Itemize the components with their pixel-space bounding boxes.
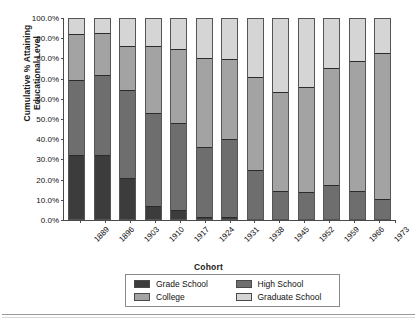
legend-swatch-icon xyxy=(236,293,252,301)
bar-segment-graduate-school xyxy=(374,18,391,53)
x-axis-tick-mark xyxy=(379,220,380,223)
bar-segment-high-school xyxy=(68,80,85,155)
bar-1945[interactable] xyxy=(272,18,289,220)
bar-segment-high-school xyxy=(221,139,238,217)
plot-area: 0.0%10.0%20.0%30.0%40.0%50.0%60.0%70.0%8… xyxy=(63,18,395,221)
y-axis-tick-label: 50.0% xyxy=(36,115,64,124)
x-axis-tick-label-1924: 1924 xyxy=(217,225,236,244)
y-axis-tick-mark xyxy=(61,220,64,221)
y-axis-tick-label: 90.0% xyxy=(36,34,64,43)
bar-1917[interactable] xyxy=(170,18,187,220)
bar-segment-grade-school xyxy=(170,210,187,220)
x-axis-tick-label-1966: 1966 xyxy=(367,225,386,244)
legend-item-college[interactable]: College xyxy=(134,292,232,302)
bar-segment-graduate-school xyxy=(323,18,340,68)
y-axis-tick-label: 30.0% xyxy=(36,155,64,164)
x-axis-tick-mark xyxy=(254,220,255,223)
bar-1938[interactable] xyxy=(247,18,264,220)
bar-segment-graduate-school xyxy=(349,18,366,61)
bar-segment-college xyxy=(94,33,111,75)
bar-segment-grade-school xyxy=(94,155,111,220)
x-axis-tick-mark xyxy=(80,220,81,223)
bar-segment-college xyxy=(247,77,264,170)
bar-segment-high-school xyxy=(349,191,366,220)
x-axis-title: Cohort xyxy=(0,262,417,272)
bar-1952[interactable] xyxy=(298,18,315,220)
bar-segment-graduate-school xyxy=(298,18,315,87)
legend-swatch-icon xyxy=(134,280,150,288)
legend-swatch-icon xyxy=(236,280,252,288)
bar-1959[interactable] xyxy=(323,18,340,220)
x-axis-tick-label-1931: 1931 xyxy=(242,225,261,244)
bar-segment-graduate-school xyxy=(94,18,111,33)
bar-1896[interactable] xyxy=(94,18,111,220)
bar-segment-high-school xyxy=(94,75,111,155)
bar-segment-college xyxy=(349,61,366,192)
bar-1910[interactable] xyxy=(145,18,162,220)
bar-group xyxy=(64,18,395,220)
bar-segment-graduate-school xyxy=(247,18,264,77)
x-axis-tick-mark xyxy=(180,220,181,223)
bar-segment-college xyxy=(272,92,289,192)
x-axis-tick-mark xyxy=(279,220,280,223)
bar-segment-college xyxy=(119,46,136,90)
bar-segment-college xyxy=(68,34,85,80)
x-axis-tick-label-1952: 1952 xyxy=(317,225,336,244)
legend-label: High School xyxy=(258,279,304,289)
bar-segment-graduate-school xyxy=(196,18,213,58)
bar-segment-high-school xyxy=(247,170,264,220)
footer-rule-secondary xyxy=(2,317,415,318)
x-axis-tick-label-1903: 1903 xyxy=(143,225,162,244)
legend-item-high-school[interactable]: High School xyxy=(236,279,334,289)
x-axis-tick-mark xyxy=(130,220,131,223)
x-axis-tick-label-1889: 1889 xyxy=(93,225,112,244)
y-axis-title-line1: Cumulative % Attaining xyxy=(22,25,33,122)
legend-label: Grade School xyxy=(156,279,208,289)
bar-segment-graduate-school xyxy=(221,18,238,59)
bar-1889[interactable] xyxy=(68,18,85,220)
y-axis-tick-label: 80.0% xyxy=(36,54,64,63)
x-axis-tick-label-1910: 1910 xyxy=(167,225,186,244)
x-axis-tick-mark xyxy=(304,220,305,223)
x-axis-tick-mark xyxy=(395,220,396,223)
chart-legend: Grade SchoolHigh SchoolCollegeGraduate S… xyxy=(125,274,340,307)
bar-segment-college xyxy=(323,68,340,185)
bar-segment-college xyxy=(221,59,238,140)
footer-rule xyxy=(2,314,415,315)
bar-segment-graduate-school xyxy=(145,18,162,46)
bar-segment-college xyxy=(145,46,162,113)
bar-1903[interactable] xyxy=(119,18,136,220)
x-axis-tick-label-1973: 1973 xyxy=(392,225,411,244)
y-axis-tick-label: 100.0% xyxy=(32,14,64,23)
x-axis-tick-mark xyxy=(354,220,355,223)
bar-segment-high-school xyxy=(272,191,289,220)
x-axis-tick-mark xyxy=(329,220,330,223)
bar-segment-graduate-school xyxy=(272,18,289,92)
legend-item-graduate-school[interactable]: Graduate School xyxy=(236,292,334,302)
bar-segment-high-school xyxy=(298,192,315,220)
bar-segment-college xyxy=(298,87,315,192)
x-axis-tick-label-1938: 1938 xyxy=(267,225,286,244)
y-axis-tick-label: 40.0% xyxy=(36,135,64,144)
y-axis-tick-label: 20.0% xyxy=(36,175,64,184)
x-axis-tick-mark xyxy=(205,220,206,223)
bar-segment-high-school xyxy=(119,90,136,178)
bar-segment-high-school xyxy=(323,185,340,220)
bar-1924[interactable] xyxy=(196,18,213,220)
bar-1931[interactable] xyxy=(221,18,238,220)
x-axis-tick-label-1896: 1896 xyxy=(118,225,137,244)
bar-segment-high-school xyxy=(196,147,213,217)
bar-segment-graduate-school xyxy=(119,18,136,46)
legend-item-grade-school[interactable]: Grade School xyxy=(134,279,232,289)
bar-segment-grade-school xyxy=(145,206,162,220)
legend-swatch-icon xyxy=(134,293,150,301)
bar-1966[interactable] xyxy=(349,18,366,220)
bar-segment-high-school xyxy=(145,113,162,206)
bar-1973[interactable] xyxy=(374,18,391,220)
bar-segment-grade-school xyxy=(119,178,136,220)
bar-segment-college xyxy=(374,53,391,198)
legend-label: College xyxy=(156,292,185,302)
x-axis-tick-mark xyxy=(105,220,106,223)
x-axis-tick-label-1945: 1945 xyxy=(292,225,311,244)
bar-segment-high-school xyxy=(374,199,391,220)
